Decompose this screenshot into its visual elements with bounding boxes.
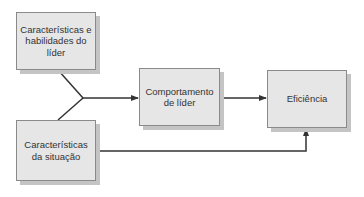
box-label: Comportamento de líder	[142, 86, 217, 109]
box-leader-traits: Características e habilidades do líder	[16, 12, 96, 70]
arrow-situation-to-effectiveness	[95, 129, 306, 151]
box-label: Características e habilidades do líder	[19, 24, 93, 59]
box-effectiveness: Eficiência	[267, 70, 347, 128]
box-situation: Características da situação	[16, 120, 96, 181]
edge-situation-junction	[58, 98, 83, 120]
edge-traits-junction	[58, 70, 83, 98]
box-leader-behavior: Comportamento de líder	[139, 68, 220, 126]
box-label: Características da situação	[18, 139, 93, 162]
box-label: Eficiência	[287, 93, 328, 105]
